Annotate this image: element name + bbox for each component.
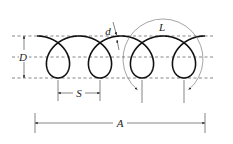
dimension-S: S (58, 80, 100, 101)
extension-lines-L (142, 80, 184, 103)
helical-spring-diagram: D d L S A (0, 0, 233, 144)
dimension-D: D (18, 36, 29, 78)
label-L: L (158, 21, 165, 33)
label-D: D (18, 51, 27, 63)
label-S: S (76, 87, 82, 99)
label-A: A (116, 117, 124, 129)
label-d: d (105, 25, 111, 37)
dimension-A: A (35, 113, 205, 133)
dimension-L: L (123, 19, 203, 90)
